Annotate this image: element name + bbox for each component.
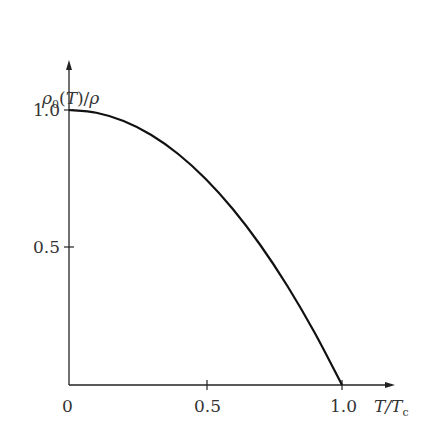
plot-area (0, 0, 431, 447)
x-axis-arrow-icon (385, 382, 395, 388)
y-tick-label-1.0: 1.0 (33, 100, 60, 120)
x-tick-label-1.0: 1.0 (330, 396, 357, 416)
x-tick-label-0: 0 (62, 396, 73, 416)
y-axis-arrow-icon (66, 60, 72, 70)
x-tick-label-0.5: 0.5 (194, 396, 221, 416)
data-curve (69, 110, 342, 385)
y-tick-label-0.5: 0.5 (33, 237, 60, 257)
x-axis-label: T/Tc (374, 396, 409, 419)
